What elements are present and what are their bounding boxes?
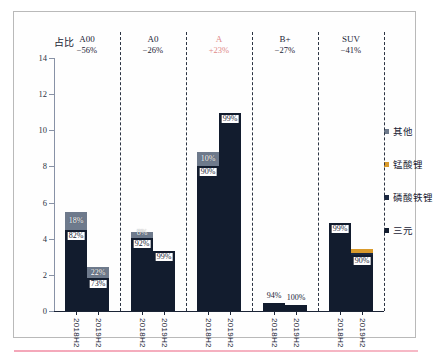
x-axis-tick	[208, 311, 209, 315]
group-header-suv: SUV−41%	[341, 34, 361, 56]
bar-suv-2018H2[interactable]: 99%	[329, 223, 351, 311]
x-axis-tick	[296, 311, 297, 315]
legend-item[interactable]: 磷酸铁锂	[384, 190, 433, 204]
legend-label: 三元	[393, 223, 413, 237]
x-axis-label: 2019H2	[226, 318, 235, 348]
bar-value-label: 10%	[201, 155, 216, 163]
x-axis-label: 2019H2	[94, 318, 103, 348]
x-axis-tick	[164, 311, 165, 315]
bar-a0-2019H2[interactable]: 99%	[153, 251, 175, 311]
bar-value-label: 100%	[287, 294, 306, 302]
bar-a0-2018H2[interactable]: 92%8%	[131, 232, 153, 312]
x-axis-label: 2019H2	[358, 318, 367, 348]
x-axis-label: 2018H2	[72, 318, 81, 348]
group-change-pct: −41%	[341, 45, 361, 56]
group-name: A0	[143, 34, 163, 45]
bar-value-label: 8%	[137, 229, 148, 237]
bar-value-label: 99%	[156, 253, 173, 261]
chart-legend: 其他锰酸锂磷酸铁锂三元	[384, 124, 433, 237]
bar-a-2019H2[interactable]: 99%	[219, 113, 241, 311]
group-header-a: A+23%	[209, 34, 229, 56]
x-axis-tick	[274, 311, 275, 315]
x-axis-label: 2018H2	[138, 318, 147, 348]
legend-label: 磷酸铁锂	[393, 190, 433, 204]
y-axis-title: 占比	[54, 34, 74, 49]
x-axis-tick	[76, 311, 77, 315]
group-change-pct: −27%	[275, 45, 295, 56]
y-axis-tick-label: 2	[43, 271, 47, 280]
group-name: SUV	[341, 34, 361, 45]
bar-segment	[197, 166, 219, 311]
group-name: B+	[275, 34, 295, 45]
group-name: A	[209, 34, 229, 45]
x-axis-tick	[362, 311, 363, 315]
bar-a00-2019H2[interactable]: 73%22%	[87, 267, 109, 311]
bar-segment	[263, 303, 285, 311]
bar-value-label: 18%	[69, 217, 84, 225]
x-axis-label: 2018H2	[270, 318, 279, 348]
bar-value-label: 82%	[68, 232, 85, 240]
bar-value-label: 99%	[332, 225, 349, 233]
group-header-a00: A00−56%	[77, 34, 97, 56]
y-axis-tick-label: 14	[39, 54, 48, 63]
bar-segment	[131, 238, 153, 311]
legend-item[interactable]: 三元	[384, 223, 433, 237]
bar-a00-2018H2[interactable]: 82%18%	[65, 212, 87, 311]
bar-value-label: 94%	[267, 292, 282, 300]
x-axis-line	[54, 311, 384, 312]
bar-segment	[329, 223, 351, 311]
group-separator	[384, 32, 385, 311]
x-axis-tick	[142, 311, 143, 315]
x-axis-label: 2018H2	[204, 318, 213, 348]
group-change-pct: −26%	[143, 45, 163, 56]
group-change-pct: −56%	[77, 45, 97, 56]
bar-value-label: 73%	[90, 280, 107, 288]
plot-area: 0246810121482%18%73%22%92%8%99%90%10%99%…	[54, 58, 384, 311]
y-axis-tick	[49, 311, 54, 312]
group-separator	[318, 32, 319, 311]
bar-segment	[65, 230, 87, 311]
chart-frame: 占比 0246810121482%18%73%22%92%8%99%90%10%…	[13, 11, 416, 338]
x-axis-label: 2019H2	[160, 318, 169, 348]
y-axis-tick-label: 6	[43, 198, 47, 207]
group-change-pct: +23%	[209, 45, 229, 56]
bar-value-label: 99%	[222, 115, 239, 123]
bar-a-2018H2[interactable]: 90%10%	[197, 152, 219, 311]
x-axis-tick	[98, 311, 99, 315]
legend-label: 锰酸锂	[393, 157, 423, 171]
bar-segment	[219, 113, 241, 311]
bar-value-label: 92%	[134, 240, 151, 248]
group-name: A00	[77, 34, 97, 45]
x-axis-label: 2018H2	[336, 318, 345, 348]
y-axis-tick-label: 4	[43, 234, 47, 243]
group-separator	[54, 32, 55, 311]
x-axis-tick	[230, 311, 231, 315]
legend-item[interactable]: 其他	[384, 124, 433, 138]
y-axis-tick-label: 8	[43, 162, 47, 171]
x-axis-label: 2019H2	[292, 318, 301, 348]
y-axis-tick-label: 10	[39, 126, 48, 135]
bar-suv-2019H2[interactable]: 90%	[351, 249, 373, 311]
bottom-accent-rule	[14, 350, 418, 352]
bar-value-label: 22%	[91, 269, 106, 277]
group-separator	[120, 32, 121, 311]
group-header-bplus: B+−27%	[275, 34, 295, 56]
x-axis-tick	[340, 311, 341, 315]
group-separator	[186, 32, 187, 311]
bar-value-label: 90%	[354, 257, 371, 265]
bar-value-label: 90%	[200, 168, 217, 176]
group-separator	[252, 32, 253, 311]
group-header-a0: A0−26%	[143, 34, 163, 56]
legend-label: 其他	[393, 124, 413, 138]
bar-bplus-2018H2[interactable]: 94%	[263, 303, 285, 311]
y-axis-tick-label: 0	[43, 307, 47, 316]
legend-item[interactable]: 锰酸锂	[384, 157, 433, 171]
y-axis-tick-label: 12	[39, 90, 48, 99]
